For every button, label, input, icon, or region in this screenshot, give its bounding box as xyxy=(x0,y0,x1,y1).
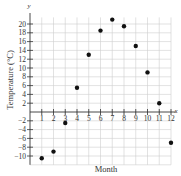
temperature-scatter-chart: −10−8−6−4−22468101214161820 123456789101… xyxy=(0,0,181,176)
data-point xyxy=(145,70,149,74)
x-tick-label: 8 xyxy=(122,114,126,123)
y-tick-label: 20 xyxy=(19,20,27,29)
x-tick-label: 11 xyxy=(156,114,163,123)
y-tick-label: 18 xyxy=(19,28,27,37)
data-point xyxy=(98,28,102,32)
data-point xyxy=(122,24,126,28)
y-axis-label: Temperature (°C) xyxy=(5,50,15,110)
data-point xyxy=(51,149,55,153)
y-tick-label: −2 xyxy=(18,116,26,125)
x-axis-name: x xyxy=(173,107,178,115)
data-point xyxy=(169,141,173,145)
y-tick-label: 10 xyxy=(19,64,27,73)
y-tick-label: −10 xyxy=(14,152,26,161)
x-tick-label: 12 xyxy=(167,114,175,123)
x-tick-label: 10 xyxy=(144,114,152,123)
grid xyxy=(30,17,171,164)
y-tick-label: 12 xyxy=(19,55,27,64)
data-point xyxy=(110,17,114,21)
y-tick-label: −8 xyxy=(18,143,26,152)
x-tick-label: 5 xyxy=(87,114,91,123)
y-tick-label: 4 xyxy=(22,90,26,99)
y-tick-label: 2 xyxy=(22,99,26,108)
data-point xyxy=(40,156,44,160)
x-tick-label: 6 xyxy=(99,114,103,123)
x-tick-label: 1 xyxy=(40,114,44,123)
y-tick-label: 16 xyxy=(19,37,27,46)
x-axis-label: Month xyxy=(95,164,118,174)
x-tick-label: 9 xyxy=(134,114,138,123)
y-tick-label: 14 xyxy=(19,46,27,55)
data-point xyxy=(87,53,91,57)
x-tick-label: 2 xyxy=(52,114,56,123)
data-point xyxy=(63,121,67,125)
y-tick-label: −4 xyxy=(18,125,26,134)
x-tick-label: 4 xyxy=(75,114,79,123)
data-point xyxy=(134,44,138,48)
y-axis-name: y xyxy=(26,2,31,10)
y-tick-label: −6 xyxy=(18,134,26,143)
data-point xyxy=(75,86,79,90)
data-point xyxy=(157,101,161,105)
axes xyxy=(30,13,176,165)
y-tick-label: 6 xyxy=(22,81,26,90)
y-tick-label: 8 xyxy=(22,72,26,81)
x-tick-label: 7 xyxy=(110,114,114,123)
data-points xyxy=(40,17,174,160)
